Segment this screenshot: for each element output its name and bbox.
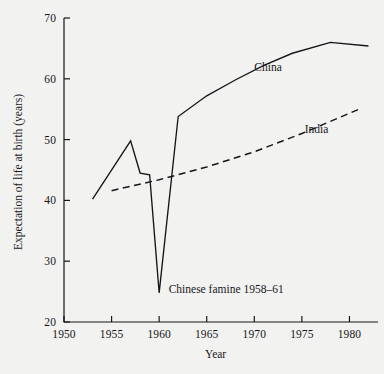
series-label-india: India: [305, 123, 329, 135]
y-tick-label: 30: [18, 255, 56, 267]
y-tick-label: 70: [18, 12, 56, 24]
x-tick-label: 1950: [52, 328, 75, 340]
chart-figure: 2030405060701950195519601965197019751980…: [0, 0, 384, 374]
x-tick-label: 1975: [290, 328, 313, 340]
x-tick-label: 1955: [100, 328, 123, 340]
x-tick-label: 1960: [147, 328, 170, 340]
series-line-china: [93, 42, 369, 293]
series-label-china: China: [254, 61, 281, 73]
x-axis-title: Year: [205, 348, 226, 360]
x-tick-label: 1965: [195, 328, 218, 340]
y-tick-label: 20: [18, 316, 56, 328]
x-axis-ticks: [64, 316, 349, 322]
plot-area: [0, 0, 384, 374]
annotation-chinese-famine: Chinese famine 1958–61: [169, 283, 284, 295]
y-axis-ticks: [64, 18, 70, 322]
y-tick-label: 60: [18, 73, 56, 85]
series-line-india: [112, 109, 359, 190]
y-axis-title: Expectation of life at birth (years): [12, 94, 24, 250]
x-tick-label: 1970: [243, 328, 266, 340]
x-tick-label: 1980: [338, 328, 361, 340]
